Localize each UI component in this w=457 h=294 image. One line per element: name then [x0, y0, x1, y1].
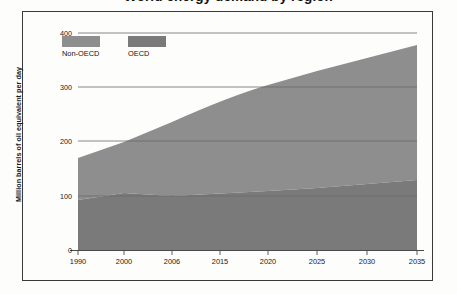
figure-title: World energy demand by region [0, 0, 457, 5]
x-tick-label-2015: 2015 [200, 257, 240, 266]
y-axis-label: Million barrels of oil equivalent per da… [14, 45, 23, 225]
chart-legend: Non-OECD OECD [62, 36, 166, 58]
y-tick-label-100: 100 [42, 192, 72, 201]
y-tick-label-300: 300 [42, 83, 72, 92]
x-tick-label-2006: 2006 [152, 257, 192, 266]
legend-label-oecd: OECD [128, 49, 149, 58]
x-tick-label-2000: 2000 [104, 257, 144, 266]
x-tick-label-2035: 2035 [397, 257, 437, 266]
y-tick-label-0: 0 [42, 246, 72, 255]
x-tick-label-2025: 2025 [297, 257, 337, 266]
legend-item-oecd: OECD [128, 36, 166, 58]
legend-item-non-oecd: Non-OECD [62, 36, 100, 58]
legend-swatch-oecd [128, 36, 166, 47]
x-tick-label-2030: 2030 [347, 257, 387, 266]
y-tick-label-200: 200 [42, 137, 72, 146]
legend-label-non-oecd: Non-OECD [62, 49, 99, 58]
x-tick-label-2020: 2020 [248, 257, 288, 266]
legend-swatch-non-oecd [62, 36, 100, 47]
x-tick-label-1990: 1990 [58, 257, 98, 266]
